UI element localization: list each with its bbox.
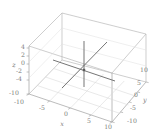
- y-tick-label-neg5: -5: [130, 104, 136, 111]
- x-axis-label: x: [60, 120, 64, 128]
- wall-gridline-back-2: [62, 28, 146, 50]
- box-edge-top-back-left: [29, 13, 62, 46]
- tick-marks: [27, 48, 149, 123]
- y-axis-tick-labels: 10 5 0 -5 -10: [127, 66, 148, 124]
- box-edge-top-back-right: [62, 13, 146, 34]
- x-tick-label-1: -5: [39, 104, 45, 111]
- z-axis-label: z: [11, 61, 16, 69]
- y-tick-label-neg10: -10: [127, 117, 137, 124]
- wall-gridline-left-2: [29, 28, 62, 62]
- origin-point-marker: [83, 69, 85, 71]
- x-tick-label-2: 0: [64, 110, 68, 117]
- tick-mark-y-2: [129, 102, 132, 103]
- plot-box-wireframe: [29, 13, 146, 122]
- tick-mark-y-1: [121, 112, 124, 113]
- z-tick-label-neg4: -4: [16, 75, 22, 82]
- floor-gridline-x-3: [91, 81, 124, 115]
- tick-mark-x-2: [68, 108, 70, 109]
- z-tick-label-neg2: -2: [16, 67, 22, 74]
- plot-canvas: -10 -5 0 5 10 10 5 0 -5 -10 4 2 0 -2 -4 …: [0, 0, 162, 137]
- z-tick-label-4: 4: [21, 43, 25, 50]
- x-tick-label-3: 5: [87, 117, 91, 124]
- y-tick-label-5: 5: [137, 79, 141, 86]
- floor-gridline-x-2: [71, 74, 104, 108]
- z-tick-label-neg10: -10: [9, 89, 19, 96]
- wall-gridline-back-1: [62, 44, 146, 66]
- tick-mark-y-4: [146, 82, 149, 83]
- z-axis-tick-labels: 4 2 0 -2 -4 -10: [9, 43, 25, 96]
- tick-mark-y-0: [112, 122, 115, 123]
- y-tick-label-10: 10: [140, 66, 148, 73]
- plot-figure: -10 -5 0 5 10 10 5 0 -5 -10 4 2 0 -2 -4 …: [0, 0, 162, 137]
- tick-mark-x-1: [47, 101, 49, 102]
- y-axis-label: y: [142, 96, 147, 104]
- wall-gridlines: [29, 28, 146, 78]
- x-tick-label-0: -10: [14, 98, 24, 105]
- x-tick-label-4: 10: [104, 123, 112, 130]
- y-tick-label-0: 0: [134, 91, 138, 98]
- z-tick-label-0: 0: [21, 59, 25, 66]
- z-tick-label-2: 2: [21, 51, 25, 58]
- box-edge-floor-back-right: [62, 60, 146, 82]
- floor-gridlines: [37, 67, 137, 115]
